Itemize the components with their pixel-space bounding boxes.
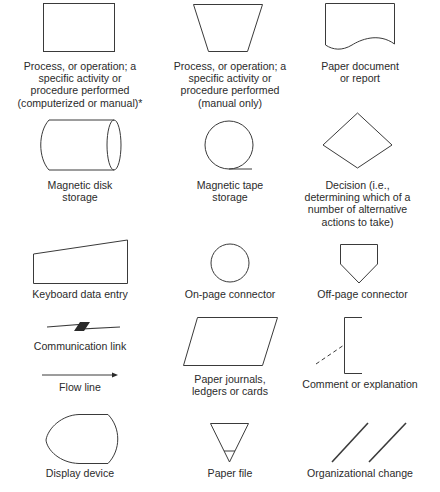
on-page-connector-symbol xyxy=(211,244,249,282)
decision-label: Decision (i.e., determining which of a n… xyxy=(285,179,430,228)
process-label: Process, or operation; a specific activi… xyxy=(0,60,160,109)
manual-process-symbol xyxy=(194,5,263,52)
on-page-connector-label: On-page connector xyxy=(160,288,300,300)
magnetic-tape-label: Magnetic tape storage xyxy=(160,179,300,203)
communication-link-symbol xyxy=(47,322,120,331)
off-page-connector-symbol xyxy=(341,245,378,284)
flow-line-symbol xyxy=(42,373,118,378)
display-device-label: Display device xyxy=(10,467,150,479)
process-symbol xyxy=(44,4,115,52)
decision-symbol xyxy=(323,113,392,168)
organizational-change-symbol xyxy=(332,423,406,462)
communication-link-label: Communication link xyxy=(10,340,150,352)
organizational-change-label: Organizational change xyxy=(290,467,430,479)
paper-document-label: Paper document or report xyxy=(290,60,430,84)
magnetic-disk-label: Magnetic disk storage xyxy=(10,179,150,203)
off-page-connector-label: Off-page connector xyxy=(295,288,430,300)
keyboard-entry-symbol xyxy=(34,240,128,284)
comment-symbol xyxy=(316,318,362,374)
flow-line-label: Flow line xyxy=(10,381,150,393)
magnetic-tape-symbol xyxy=(205,121,253,169)
manual-process-label: Process, or operation; a specific activi… xyxy=(150,60,310,109)
magnetic-disk-symbol xyxy=(41,120,121,170)
paper-journals-symbol xyxy=(184,318,278,366)
paper-file-symbol xyxy=(211,424,249,463)
paper-file-label: Paper file xyxy=(160,467,300,479)
paper-journals-label: Paper journals, ledgers or cards xyxy=(160,373,300,397)
paper-document-symbol xyxy=(326,4,395,50)
keyboard-entry-label: Keyboard data entry xyxy=(10,288,150,300)
comment-label: Comment or explanation xyxy=(290,378,430,390)
display-device-symbol xyxy=(46,415,118,464)
